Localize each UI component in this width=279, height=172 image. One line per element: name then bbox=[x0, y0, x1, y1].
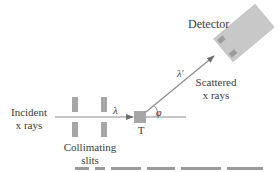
scattering-angle-label: φ bbox=[156, 107, 162, 119]
detector-body bbox=[214, 4, 275, 62]
target-block bbox=[134, 111, 146, 123]
slit-2-top bbox=[101, 97, 107, 112]
incident-label-line1: Incident bbox=[3, 106, 55, 118]
slit-2-bottom bbox=[101, 122, 107, 137]
incident-label-line2: x rays bbox=[3, 119, 55, 131]
scattered-label-line1: Scattered bbox=[190, 76, 242, 88]
collimating-label-line1: Collimating bbox=[58, 141, 122, 153]
cropped-caption-fragment bbox=[75, 163, 279, 172]
compton-diagram: Detector Incident x rays Collimating sli… bbox=[0, 0, 279, 172]
scattered-label-line2: x rays bbox=[190, 89, 242, 101]
slit-1-bottom bbox=[72, 122, 78, 137]
incident-wavelength-label: λ bbox=[113, 104, 118, 116]
scattered-wavelength-label: λ′ bbox=[177, 68, 184, 80]
detector-label: Detector bbox=[188, 18, 229, 30]
detector bbox=[214, 4, 275, 62]
slit-1-top bbox=[72, 97, 78, 112]
target-label: T bbox=[135, 124, 147, 136]
